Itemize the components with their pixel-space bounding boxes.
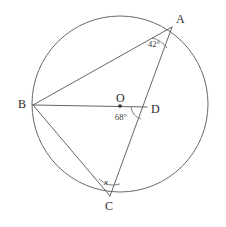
angle-label-d: 68° [115,113,127,122]
center-label-o: O [116,92,125,104]
vertex-label-a: A [176,13,185,25]
geometry-canvas [0,0,226,227]
circle-geometry-figure: A B C D O 42° 68° x [0,0,226,227]
segment-bd [33,105,147,107]
vertex-label-c: C [105,200,113,212]
angle-label-c: x [104,178,108,187]
angle-arc-d [131,107,141,119]
angle-arc-c [99,179,120,185]
angle-label-a: 42° [148,40,160,49]
vertex-label-d: D [151,103,160,115]
vertex-label-b: B [18,98,26,110]
segment-bc [33,105,110,196]
